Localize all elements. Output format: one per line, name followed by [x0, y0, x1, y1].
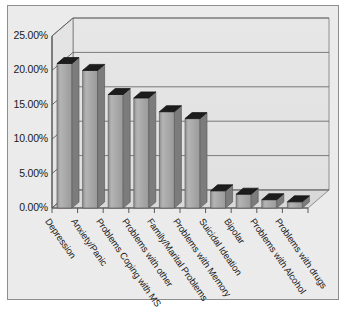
y-tick-10: 10.00% [0, 132, 48, 144]
bar-anxiety-panic [83, 64, 105, 208]
chart-container: 25.00% 20.00% 15.00% 10.00% 5.00% 0.00% … [0, 0, 346, 311]
bar-problems-coping-with-ms [108, 89, 130, 209]
bar-depression [57, 58, 79, 209]
bar-problems-with-other [134, 92, 156, 208]
bar-problems-with-memory [185, 113, 207, 208]
y-tick-25: 25.00% [0, 29, 48, 41]
y-tick-20: 20.00% [0, 63, 48, 75]
bar-family-marital-problems [159, 106, 181, 208]
bar-bipolar [236, 188, 258, 208]
y-tick-5: 5.00% [0, 167, 48, 179]
y-tick-0: 0.00% [0, 201, 48, 213]
y-tick-15: 15.00% [0, 98, 48, 110]
chart-canvas [0, 0, 346, 311]
x-axis [52, 208, 308, 213]
bar-suicidal-ideation [211, 185, 233, 208]
